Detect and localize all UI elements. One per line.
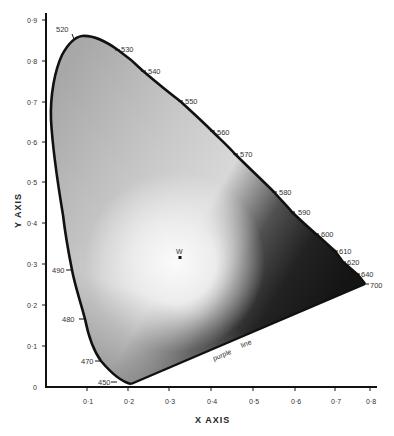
wavelength-label-540: 540 — [148, 67, 161, 76]
wavelength-label-700: 700 — [370, 281, 383, 290]
x-tick-label: 0·4 — [207, 398, 217, 405]
wavelength-label-480: 480 — [62, 315, 75, 324]
wavelength-label-550: 550 — [185, 97, 198, 106]
wavelength-label-520: 520 — [56, 25, 69, 34]
y-tick-label: 0·1 — [27, 343, 37, 350]
wavelength-label-610: 610 — [339, 247, 352, 256]
wavelength-label-570: 570 — [240, 150, 253, 159]
x-tick-label: 0·3 — [165, 398, 175, 405]
y-tick-label: 0·6 — [27, 139, 37, 146]
x-tick-label: 0·6 — [291, 398, 301, 405]
wavelength-label-470: 470 — [81, 357, 94, 366]
y-tick-label: 0·8 — [27, 58, 37, 65]
purple-line-label-line: line — [240, 338, 253, 349]
white-point-marker — [179, 256, 182, 259]
y-tick-label: 0·5 — [27, 179, 37, 186]
locus-fill — [40, 20, 380, 390]
y-tick-label: 0·9 — [27, 17, 37, 24]
y-axis-title: Y AXIS — [13, 193, 23, 228]
wavelength-label-450: 450 — [98, 378, 111, 387]
y-tick-label: 0·4 — [27, 220, 37, 227]
wavelength-label-600: 600 — [321, 230, 334, 239]
wavelength-label-490: 490 — [52, 266, 65, 275]
x-tick-label: 0·1 — [83, 398, 93, 405]
wavelength-label-640: 640 — [361, 270, 374, 279]
chromaticity-diagram: 0 0·1 0·2 0·3 0·4 0·5 0·6 0·7 0·8 0·9 0·… — [0, 0, 394, 436]
x-tick-label: 0·2 — [124, 398, 134, 405]
wavelength-label-580: 580 — [279, 188, 292, 197]
x-tick-label: 0·8 — [366, 398, 376, 405]
wavelength-label-620: 620 — [347, 258, 360, 267]
x-tick-labels: 0·1 0·2 0·3 0·4 0·5 0·6 0·7 0·8 — [83, 398, 376, 405]
wavelength-label-530: 530 — [121, 45, 134, 54]
y-tick-label: 0·7 — [27, 99, 37, 106]
y-tick-label: 0·3 — [27, 261, 37, 268]
y-tick-labels: 0 0·1 0·2 0·3 0·4 0·5 0·6 0·7 0·8 0·9 — [27, 17, 37, 391]
y-tick-label: 0·2 — [27, 302, 37, 309]
x-axis-title: X AXIS — [195, 415, 230, 425]
wavelength-label-560: 560 — [217, 128, 230, 137]
purple-line-label-purple: purple — [212, 348, 233, 363]
x-tick-label: 0·5 — [249, 398, 259, 405]
white-point-label: W — [176, 248, 183, 255]
y-tick-label: 0 — [33, 384, 37, 391]
x-tick-label: 0·7 — [331, 398, 341, 405]
wavelength-label-590: 590 — [298, 208, 311, 217]
